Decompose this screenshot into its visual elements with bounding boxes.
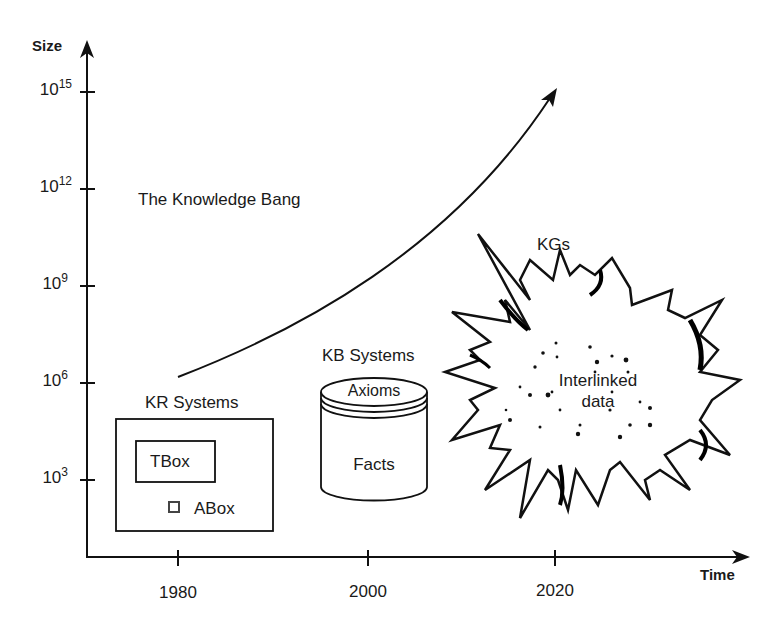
y-tick-1e9: 109 bbox=[8, 274, 68, 294]
y-axis bbox=[80, 40, 95, 558]
x-tick-2000: 2000 bbox=[338, 582, 398, 602]
facts-label: Facts bbox=[334, 455, 414, 475]
data-label: data bbox=[553, 392, 643, 412]
y-tick-1e15: 1015 bbox=[12, 80, 72, 100]
x-axis bbox=[87, 550, 750, 566]
abox-label: ABox bbox=[194, 499, 235, 519]
y-axis-label: Size bbox=[32, 37, 62, 54]
y-tick-1e3: 103 bbox=[8, 468, 68, 488]
diagram-canvas bbox=[0, 0, 774, 633]
tbox-label: TBox bbox=[150, 452, 190, 472]
kgs-label: KGs bbox=[537, 235, 570, 255]
x-axis-label: Time bbox=[700, 566, 735, 583]
y-tick-1e12: 1012 bbox=[12, 177, 72, 197]
kr-systems-label: KR Systems bbox=[145, 393, 239, 413]
diagram-title: The Knowledge Bang bbox=[138, 190, 301, 210]
x-tick-2020: 2020 bbox=[525, 581, 585, 601]
y-tick-1e6: 106 bbox=[8, 371, 68, 391]
axioms-label: Axioms bbox=[334, 382, 414, 400]
kb-systems-label: KB Systems bbox=[322, 346, 415, 366]
x-tick-1980: 1980 bbox=[148, 583, 208, 603]
interlinked-label: Interlinked bbox=[553, 371, 643, 391]
